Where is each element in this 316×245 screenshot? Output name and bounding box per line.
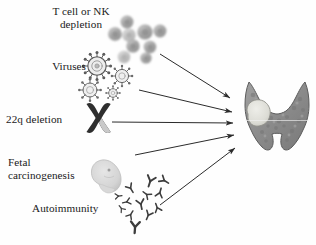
thyroid-nodule xyxy=(247,100,270,126)
label-t-cell-or-nk-depletion: T cell or NK depletion xyxy=(38,5,124,30)
arrow-autoimmunity-to-thyroid xyxy=(160,148,235,205)
label-22q-deletion: 22q deletion xyxy=(6,113,84,126)
label-autoimmunity: Autoimmunity xyxy=(32,202,124,215)
fetus-icon xyxy=(91,160,121,193)
figure-canvas: T cell or NK depletion Viruses 22q delet… xyxy=(0,0,316,245)
arrow-t-cell-to-thyroid xyxy=(160,54,230,98)
arrow-fetal-to-thyroid xyxy=(135,135,234,155)
arrow-22q-to-thyroid xyxy=(112,122,233,123)
label-viruses: Viruses xyxy=(14,60,86,73)
chromosome-icon xyxy=(87,103,111,133)
label-fetal-carcinogenesis: Fetal carcinogenesis xyxy=(8,156,94,181)
arrow-viruses-to-thyroid xyxy=(139,90,232,112)
thyroid-gland-with-nodule xyxy=(245,82,309,150)
